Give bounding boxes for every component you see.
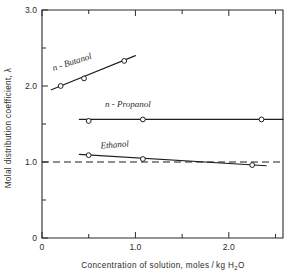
- x-tick-label: 2.0: [223, 242, 235, 252]
- data-point: [122, 59, 127, 64]
- y-tick-label: 1.0: [25, 157, 37, 167]
- x-tick-label: 0: [40, 242, 45, 252]
- y-tick-label: 2.0: [25, 81, 37, 91]
- data-point: [86, 119, 91, 124]
- data-point: [58, 84, 63, 89]
- data-point: [140, 157, 145, 162]
- y-tick-label: 3.0: [25, 5, 37, 15]
- x-axis-title: Concentration of solution, moles / kg H2…: [81, 261, 244, 271]
- data-point: [259, 117, 264, 122]
- chart-background: [0, 0, 291, 275]
- y-axis-title: Molal distribution coefficient, λ: [4, 67, 13, 188]
- chart-figure: 01.02.0 01.02.03.0 n - Butanoln - Propan…: [0, 0, 291, 275]
- y-tick-label: 0: [32, 233, 37, 243]
- molal-distribution-coefficient-chart: 01.02.0 01.02.03.0 n - Butanoln - Propan…: [0, 0, 291, 275]
- data-point: [82, 76, 87, 81]
- data-point: [140, 117, 145, 122]
- data-point: [250, 163, 255, 168]
- x-tick-label: 1.0: [129, 242, 141, 252]
- data-point: [86, 153, 91, 158]
- series-label: Ethanol: [99, 139, 130, 151]
- series-label: n - Propanol: [105, 99, 151, 109]
